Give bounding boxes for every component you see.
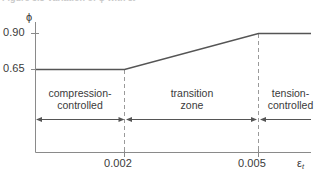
x-axis-symbol: εt: [297, 157, 304, 171]
zone-label-compression-line2: controlled: [36, 99, 124, 111]
zone-label-transition-line1: transition: [126, 87, 258, 99]
x-tick-label-0002: 0.002: [104, 158, 132, 169]
zone-label-transition-line2: zone: [126, 99, 258, 111]
arrow-head-right-compression: [119, 117, 125, 122]
zone-label-transition-zone: transition zone: [126, 87, 258, 111]
zone-label-compression-line1: compression-: [36, 87, 124, 99]
phi-curve: [36, 34, 311, 70]
figure-container: Figure 3.8 Variation of φ with εt: [0, 0, 321, 178]
x-tick-label-0005: 0.005: [238, 158, 266, 169]
arrow-head-left-tension: [260, 117, 266, 122]
y-axis-symbol: ϕ: [26, 11, 32, 23]
arrow-head-right-transition: [251, 117, 257, 122]
arrow-head-left-compression: [36, 117, 42, 122]
zone-label-tension-line2: controlled: [260, 99, 321, 111]
arrow-head-left-transition: [126, 117, 132, 122]
y-tick-label-065: 0.65: [3, 63, 25, 74]
zone-arrows: [36, 117, 311, 122]
zone-label-compression-controlled: compression- controlled: [36, 87, 124, 111]
zone-label-tension-controlled: tension- controlled: [260, 87, 321, 111]
x-axis-symbol-subscript: t: [302, 162, 304, 171]
y-tick-label-090: 0.90: [3, 27, 25, 38]
zone-label-tension-line1: tension-: [260, 87, 321, 99]
